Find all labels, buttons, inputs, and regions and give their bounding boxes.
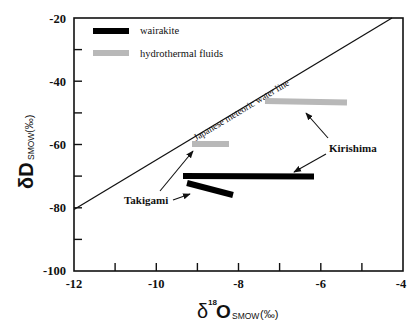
kirishima-label: Kirishima: [329, 142, 377, 154]
svg-text:SMOW: SMOW: [232, 311, 259, 321]
legend: wairakite hydrothermal fluids: [93, 25, 223, 59]
y-tick-label: -20: [49, 12, 66, 26]
legend-swatch-wairakite: [93, 28, 129, 34]
svg-text:(‰): (‰): [260, 308, 278, 320]
x-axis-ticks: [115, 263, 362, 271]
y-axis-ticks: [74, 50, 82, 240]
x-tick-label: -6: [316, 277, 326, 291]
x-tick-labels: -12 -10 -8 -6 -4: [66, 277, 407, 291]
svg-text:(‰): (‰): [23, 115, 35, 133]
annotation-arrows: [160, 113, 328, 200]
x-tick-label: -8: [233, 277, 243, 291]
y-tick-label: -80: [49, 201, 66, 215]
x-axis-title: δ 18 O SMOW (‰): [197, 298, 278, 322]
takigami-label: Takigami: [124, 194, 168, 206]
x-tick-label: -12: [66, 277, 83, 291]
legend-swatch-fluids: [93, 50, 129, 56]
svg-text:O: O: [216, 301, 231, 322]
y-axis-title: δD SMOW (‰): [15, 115, 37, 189]
wairakite-kirishima-bar: [183, 176, 314, 177]
y-tick-label: -60: [49, 138, 66, 152]
arrow-kirishima-wairakite: [294, 154, 326, 172]
svg-text:SMOW: SMOW: [26, 133, 36, 160]
svg-text:δD: δD: [15, 162, 37, 189]
arrow-kirishima-fluid: [306, 113, 328, 138]
x-tick-label: -4: [396, 277, 407, 291]
svg-text:δ: δ: [197, 300, 208, 322]
y-tick-label: -100: [43, 264, 66, 278]
isotope-chart: -20 -40 -60 -80 -100 -12 -10 -8 -6 -4 δ …: [0, 0, 419, 332]
arrow-takigami-wairakite: [173, 194, 190, 200]
wairakite-takigami-bar: [187, 183, 233, 195]
y-tick-labels: -20 -40 -60 -80 -100: [43, 12, 66, 278]
legend-label-wairakite: wairakite: [140, 25, 179, 36]
fluid-kirishima-bar: [265, 101, 347, 103]
mwl-label: Japanese meteoric water line: [192, 78, 291, 143]
y-tick-label: -40: [49, 75, 66, 89]
legend-label-fluids: hydrothermal fluids: [140, 48, 223, 59]
x-tick-label: -10: [148, 277, 165, 291]
